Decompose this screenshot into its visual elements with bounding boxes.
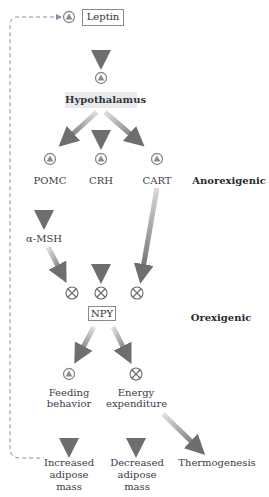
node-decreased-line3: mass (110, 481, 164, 492)
node-alpha-msh: α-MSH (22, 233, 66, 244)
node-cart: CART (137, 175, 177, 186)
node-feeding-line1: Feeding (44, 387, 94, 398)
stimulatory-icon (152, 154, 163, 165)
stimulatory-icon (96, 73, 107, 84)
node-increased-line1: Increased (42, 457, 96, 468)
node-hypothalamus: Hypothalamus (65, 92, 137, 108)
node-decreased-line1: Decreased (110, 457, 164, 468)
label-orexigenic: Orexigenic (186, 312, 256, 323)
node-energy-line2: expenditure (106, 398, 166, 409)
node-increased-line2: adipose (42, 469, 96, 480)
node-npy: NPY (88, 306, 116, 321)
stimulatory-icon (64, 369, 75, 380)
stimulatory-icon (96, 154, 107, 165)
stimulatory-icon (64, 12, 75, 23)
inhibitory-icon (130, 368, 142, 380)
inhibitory-icon (131, 287, 143, 299)
inhibitory-icon (95, 287, 107, 299)
node-decreased-line2: adipose (110, 469, 164, 480)
label-anorexigenic: Anorexigenic (190, 175, 268, 186)
node-pomc: POMC (30, 175, 70, 186)
node-crh: CRH (83, 175, 119, 186)
node-feeding-line2: behavior (44, 398, 94, 409)
node-energy-line1: Energy (106, 387, 166, 398)
node-leptin: Leptin (82, 9, 124, 26)
pathway-arrows (0, 0, 269, 497)
node-thermogenesis: Thermogenesis (178, 457, 256, 468)
inhibitory-icon (66, 287, 78, 299)
node-increased-line3: mass (42, 481, 96, 492)
stimulatory-icon (45, 154, 56, 165)
